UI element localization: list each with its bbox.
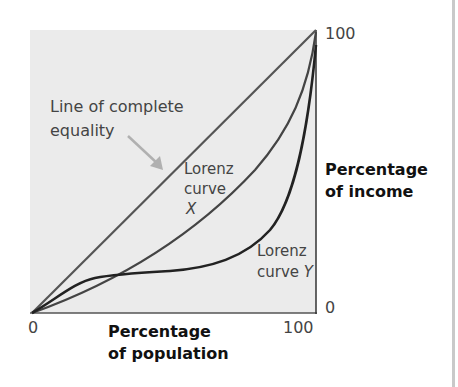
x-tick-100: 100 <box>283 318 314 337</box>
y-tick-0: 0 <box>325 298 335 317</box>
x-tick-0: 0 <box>28 318 38 337</box>
curve-x-label-line2: curve <box>184 180 226 198</box>
curve-x-label-line3: X <box>186 200 196 218</box>
equality-label-line1: Line of complete <box>50 98 184 116</box>
equality-label-line2: equality <box>50 122 115 140</box>
curve-y-label-text: curve <box>257 263 304 281</box>
y-tick-100: 100 <box>325 24 356 43</box>
curve-y-label-line1: Lorenz <box>257 242 307 260</box>
x-axis-title-line2: of population <box>108 344 229 364</box>
x-axis-title-line1: Percentage <box>108 322 211 342</box>
curve-y-label-letter: Y <box>304 263 313 281</box>
y-axis-title-line2: of income <box>325 182 413 202</box>
curve-y-label-line2: curve Y <box>257 263 313 281</box>
y-axis-title-line1: Percentage <box>325 160 428 180</box>
curve-x-label-line1: Lorenz <box>184 160 234 178</box>
